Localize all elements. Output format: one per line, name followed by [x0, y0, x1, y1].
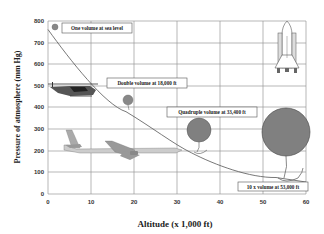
helicopter-icon	[48, 82, 98, 96]
airliner-icon	[64, 130, 182, 160]
balloon-53000ft	[262, 108, 310, 181]
svg-text:50: 50	[260, 199, 267, 205]
svg-text:40: 40	[217, 199, 224, 205]
balloon-33400ft	[187, 118, 211, 154]
annotation-sea-level: One volume at sea level	[62, 23, 132, 33]
svg-text:200: 200	[34, 148, 45, 154]
balloon-18000ft	[123, 95, 133, 110]
svg-text:800: 800	[34, 18, 45, 24]
svg-text:10 x volume at 53,000 ft: 10 x volume at 53,000 ft	[247, 184, 300, 190]
svg-text:700: 700	[34, 40, 45, 46]
annotation-53000ft: 10 x volume at 53,000 ft	[238, 182, 308, 191]
chart-canvas: 800 700 600 500 400 300 200 100 0 0 10 2…	[0, 0, 324, 234]
space-shuttle-icon	[275, 21, 299, 73]
svg-text:60: 60	[303, 199, 310, 205]
svg-text:Double volume at 18,000 ft: Double volume at 18,000 ft	[117, 80, 176, 86]
balloon-sea-level	[52, 24, 58, 30]
svg-text:One volume at sea level: One volume at sea level	[71, 25, 123, 31]
x-axis-label: Altitude (x 1,000 ft)	[138, 219, 213, 229]
svg-text:0: 0	[46, 199, 50, 205]
y-axis-ticks: 800 700 600 500 400 300 200 100 0	[34, 18, 45, 197]
svg-text:30: 30	[174, 199, 181, 205]
svg-text:500: 500	[34, 83, 45, 89]
svg-text:400: 400	[34, 104, 45, 110]
svg-text:600: 600	[34, 61, 45, 67]
svg-text:100: 100	[34, 169, 45, 175]
x-axis-ticks: 0 10 20 30 40 50 60	[46, 199, 310, 205]
svg-text:20: 20	[131, 199, 138, 205]
annotation-33400ft: Quadruple volume at 33,400 ft	[167, 107, 257, 117]
svg-text:Quadruple volume at 33,400 ft: Quadruple volume at 33,400 ft	[178, 109, 246, 115]
svg-text:0: 0	[41, 191, 45, 197]
y-axis-label: Pressure of atmosphere (mm Hg)	[13, 50, 22, 163]
svg-text:300: 300	[34, 126, 45, 132]
annotation-18000ft: Double volume at 18,000 ft	[107, 78, 187, 88]
svg-text:10: 10	[88, 199, 95, 205]
